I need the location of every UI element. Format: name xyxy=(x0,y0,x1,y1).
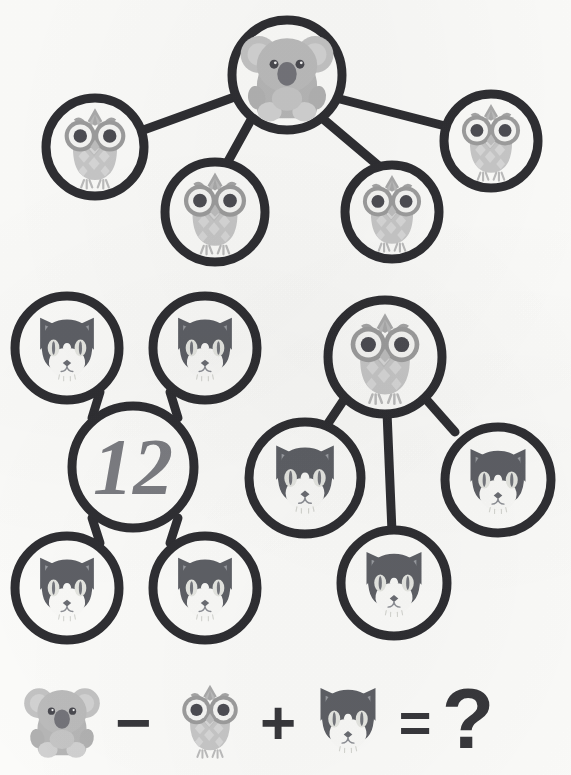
minus-operator: − xyxy=(115,688,151,757)
node-owl-bottom-left[interactable] xyxy=(165,162,265,262)
node-cat-bottom[interactable] xyxy=(341,530,447,636)
connector-koala-owl-bottom-right xyxy=(322,118,380,167)
node-owl-center[interactable] xyxy=(328,300,442,414)
number-icon: 12 xyxy=(93,423,173,511)
connector-owl-cat-bottom xyxy=(387,412,392,532)
node-cat-bottom-left[interactable] xyxy=(15,536,119,640)
node-owl-bottom-right[interactable] xyxy=(345,165,439,259)
connector-koala-owl-bottom-left xyxy=(226,118,252,165)
node-cat-top-left[interactable] xyxy=(15,296,119,400)
puzzle-middle-right xyxy=(249,300,551,636)
connector-koala-owl-left xyxy=(138,95,240,132)
node-owl-left[interactable] xyxy=(46,98,144,196)
equation-owl[interactable] xyxy=(182,685,237,758)
node-koala-center[interactable] xyxy=(232,20,342,130)
puzzle-middle-left: 12 xyxy=(15,296,257,640)
puzzle-page: 12 xyxy=(0,0,571,775)
node-cat-top-right[interactable] xyxy=(153,296,257,400)
node-cat-right[interactable] xyxy=(445,427,551,533)
connector-koala-owl-right xyxy=(336,98,449,127)
puzzle-canvas: 12 xyxy=(0,0,571,775)
node-owl-right[interactable] xyxy=(444,94,538,188)
puzzle-top xyxy=(46,20,538,262)
node-cat-bottom-right[interactable] xyxy=(153,536,257,640)
final-equation: − + = ? xyxy=(24,670,494,766)
node-number-twelve[interactable]: 12 xyxy=(72,406,194,528)
connector-owl-cat-right xyxy=(425,398,455,432)
equals-operator: = xyxy=(399,691,432,754)
node-cat-left[interactable] xyxy=(249,422,361,534)
equation-koala[interactable] xyxy=(24,688,100,758)
question-mark[interactable]: ? xyxy=(442,670,495,766)
plus-operator: + xyxy=(260,688,296,757)
equation-cat[interactable] xyxy=(320,688,375,753)
